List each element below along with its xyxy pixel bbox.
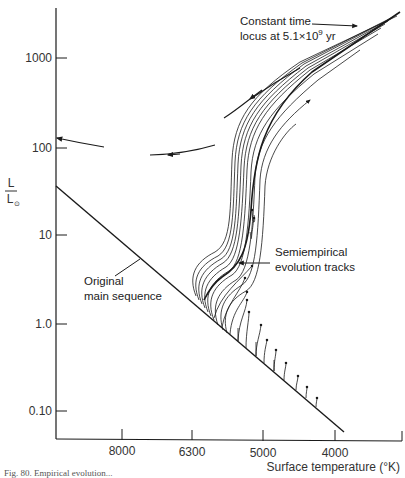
annotation-main-sequence: Original main sequence: [84, 259, 162, 302]
x-axis-label: Surface temperature (°K): [266, 460, 400, 474]
svg-text:5000: 5000: [250, 446, 277, 460]
svg-text:locus at 5.1×109 yr: locus at 5.1×109 yr: [240, 28, 336, 42]
svg-text:1000: 1000: [25, 51, 52, 65]
svg-text:10: 10: [39, 228, 53, 242]
svg-text:main sequence: main sequence: [84, 290, 162, 302]
svg-text:Semiempirical: Semiempirical: [275, 246, 347, 258]
x-tick-5000: 5000: [250, 430, 277, 460]
svg-text:6300: 6300: [179, 445, 206, 459]
y-axis-label: L L ⊙: [5, 176, 20, 208]
y-tick-100: 100: [32, 141, 67, 155]
svg-text:1.0: 1.0: [35, 317, 52, 331]
svg-text:⊙: ⊙: [14, 200, 20, 208]
svg-text:evolution tracks: evolution tracks: [275, 261, 355, 273]
svg-text:100: 100: [32, 141, 52, 155]
x-axis: [56, 439, 402, 441]
svg-text:Constant time: Constant time: [240, 15, 311, 27]
main-sequence: [56, 186, 344, 432]
svg-text:Original: Original: [84, 275, 124, 287]
annotation-evolution-tracks: Semiempirical evolution tracks: [239, 246, 355, 273]
y-tick-1000: 1000: [25, 51, 67, 65]
x-tick-4000: 4000: [322, 430, 349, 460]
svg-text:L: L: [7, 192, 14, 206]
figure-caption: Fig. 80. Empirical evolution...: [4, 468, 113, 478]
y-tick-1: 1.0: [35, 317, 67, 331]
hr-diagram: 1000 100 10 1.0 0.10 8000 6300 50: [0, 0, 405, 478]
x-tick-8000: 8000: [109, 429, 136, 458]
y-tick-0.1: 0.10: [29, 404, 67, 418]
svg-text:0.10: 0.10: [29, 404, 53, 418]
svg-text:4000: 4000: [322, 446, 349, 460]
axes: 1000 100 10 1.0 0.10 8000 6300 50: [5, 8, 402, 474]
svg-text:8000: 8000: [109, 444, 136, 458]
svg-text:L: L: [8, 176, 15, 190]
lower-tracks: [214, 210, 317, 407]
x-tick-6300: 6300: [179, 430, 206, 459]
y-tick-10: 10: [39, 228, 67, 242]
annotation-constant-time-locus: Constant time locus at 5.1×109 yr: [240, 15, 357, 42]
evolution-tracks: [193, 12, 400, 333]
